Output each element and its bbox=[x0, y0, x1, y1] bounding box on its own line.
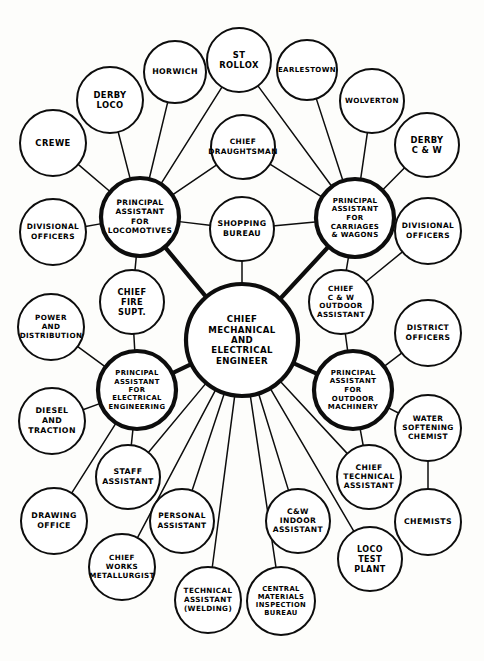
node-personal_asst[interactable]: PERSONALASSISTANT bbox=[150, 489, 214, 553]
node-power_dist[interactable]: POWERANDDISTRIBUTION bbox=[18, 294, 84, 360]
node-circle-loco_test[interactable] bbox=[338, 527, 402, 591]
node-pa_outdoor[interactable]: PRINCIPALASSISTANTFOROUTDOORMACHINERY bbox=[314, 351, 392, 429]
node-st_rollox[interactable]: STROLLOX bbox=[207, 28, 271, 92]
node-circle-chemists[interactable] bbox=[395, 489, 461, 555]
node-circle-derby_loco[interactable] bbox=[77, 67, 143, 133]
node-tech_weld[interactable]: TECHNICALASSISTANT(WELDING) bbox=[175, 567, 241, 633]
node-earlestown[interactable]: EARLESTOWN bbox=[277, 40, 337, 100]
node-cw_indoor[interactable]: C&WINDOORASSISTANT bbox=[266, 489, 330, 553]
node-chemists[interactable]: CHEMISTS bbox=[395, 489, 461, 555]
node-circle-chief_cw_out[interactable] bbox=[309, 270, 373, 334]
node-chief_draught[interactable]: CHIEFDRAUGHTSMAN bbox=[208, 115, 278, 179]
node-circle-pa_loco[interactable] bbox=[101, 178, 179, 256]
node-circle-tech_weld[interactable] bbox=[175, 567, 241, 633]
edge-cme-to-pa_loco bbox=[164, 246, 207, 298]
node-derby_cw[interactable]: DERBYC & W bbox=[395, 113, 459, 177]
edge-pa_loco-to-derby_loco bbox=[118, 131, 131, 181]
node-chief_tech[interactable]: CHIEFTECHNICALASSISTANT bbox=[337, 445, 401, 509]
org-chart-canvas: CHIEFMECHANICALANDELECTRICALENGINEERPRIN… bbox=[0, 0, 484, 661]
edge-pa_loco-to-shopping bbox=[177, 221, 211, 225]
node-pa_cw[interactable]: PRINCIPALASSISTANTFORCARRIAGES& WAGONS bbox=[316, 179, 394, 257]
node-pa_loco[interactable]: PRINCIPALASSISTANTFORLOCOMOTIVES bbox=[101, 178, 179, 256]
edge-pa_elec-to-power_dist bbox=[76, 346, 106, 368]
node-circle-cme[interactable] bbox=[186, 284, 298, 396]
edge-cme-to-personal_asst bbox=[192, 392, 225, 492]
node-district_off[interactable]: DISTRICTOFFICERS bbox=[395, 300, 461, 366]
node-drawing[interactable]: DRAWINGOFFICE bbox=[21, 488, 87, 554]
node-circle-cw_indoor[interactable] bbox=[266, 489, 330, 553]
node-circle-chief_draught[interactable] bbox=[211, 115, 275, 179]
org-chart-diagram: CHIEFMECHANICALANDELECTRICALENGINEERPRIN… bbox=[0, 0, 484, 661]
node-chief_works[interactable]: CHIEFWORKSMETALLURGIST bbox=[89, 534, 155, 600]
node-water_chem[interactable]: WATERSOFTENINGCHEMIST bbox=[395, 395, 461, 461]
edge-pa_cw-to-wolverton bbox=[360, 131, 367, 181]
node-circle-district_off[interactable] bbox=[395, 300, 461, 366]
node-circle-wolverton[interactable] bbox=[340, 69, 404, 133]
node-circle-crewe[interactable] bbox=[20, 110, 86, 176]
node-cme[interactable]: CHIEFMECHANICALANDELECTRICALENGINEER bbox=[186, 284, 298, 396]
node-circle-st_rollox[interactable] bbox=[207, 28, 271, 92]
edge-pa_outdoor-to-district_off bbox=[383, 352, 403, 367]
node-horwich[interactable]: HORWICH bbox=[144, 41, 206, 103]
node-wolverton[interactable]: WOLVERTON bbox=[340, 69, 404, 133]
nodes-layer: CHIEFMECHANICALANDELECTRICALENGINEERPRIN… bbox=[18, 28, 461, 635]
edge-cme-to-pa_outdoor bbox=[292, 362, 319, 374]
node-circle-shopping[interactable] bbox=[210, 197, 274, 261]
node-div_off_right[interactable]: DIVISIONALOFFICERS bbox=[395, 198, 461, 264]
node-loco_test[interactable]: LOCOTESTPLANT bbox=[338, 527, 402, 591]
edge-pa_loco-to-horwich bbox=[149, 101, 168, 181]
node-circle-chief_fire[interactable] bbox=[100, 270, 164, 334]
node-circle-power_dist[interactable] bbox=[18, 294, 84, 360]
node-crewe[interactable]: CREWE bbox=[20, 110, 86, 176]
node-circle-pa_elec[interactable] bbox=[98, 351, 176, 429]
node-circle-derby_cw[interactable] bbox=[395, 113, 459, 177]
node-circle-staff_asst[interactable] bbox=[96, 445, 160, 509]
edge-pa_cw-to-shopping bbox=[272, 222, 317, 226]
edge-cme-to-central_mat bbox=[250, 394, 276, 569]
node-chief_fire[interactable]: CHIEFFIRESUPT. bbox=[100, 270, 164, 334]
node-derby_loco[interactable]: DERBYLOCO bbox=[77, 67, 143, 133]
node-shopping[interactable]: SHOPPINGBUREAU bbox=[210, 197, 274, 261]
node-circle-personal_asst[interactable] bbox=[150, 489, 214, 553]
node-chief_cw_out[interactable]: CHIEFC & WOUTDOORASSISTANT bbox=[309, 270, 373, 334]
node-circle-div_off_right[interactable] bbox=[395, 198, 461, 264]
edge-pa_cw-to-chief_draught bbox=[269, 163, 324, 198]
node-circle-central_mat[interactable] bbox=[247, 567, 315, 635]
node-circle-chief_works[interactable] bbox=[89, 534, 155, 600]
node-pa_elec[interactable]: PRINCIPALASSISTANTFORELECTRICALENGINEERI… bbox=[98, 351, 176, 429]
node-circle-drawing[interactable] bbox=[21, 488, 87, 554]
edge-pa_cw-to-derby_cw bbox=[381, 167, 405, 192]
node-circle-pa_cw[interactable] bbox=[316, 179, 394, 257]
node-circle-water_chem[interactable] bbox=[395, 395, 461, 461]
node-circle-horwich[interactable] bbox=[144, 41, 206, 103]
node-circle-div_off_left[interactable] bbox=[20, 199, 86, 265]
node-diesel[interactable]: DIESELANDTRACTION bbox=[19, 388, 85, 454]
node-central_mat[interactable]: CENTRALMATERIALSINSPECTIONBUREAU bbox=[247, 567, 315, 635]
node-staff_asst[interactable]: STAFFASSISTANT bbox=[96, 445, 160, 509]
node-circle-diesel[interactable] bbox=[19, 388, 85, 454]
edge-cme-to-pa_elec bbox=[171, 363, 193, 373]
edge-pa_loco-to-chief_draught bbox=[171, 164, 218, 196]
node-circle-chief_tech[interactable] bbox=[337, 445, 401, 509]
edge-pa_loco-to-crewe bbox=[77, 163, 111, 192]
node-circle-earlestown[interactable] bbox=[277, 40, 337, 100]
node-div_off_left[interactable]: DIVISIONALOFFICERS bbox=[20, 199, 86, 265]
node-circle-pa_outdoor[interactable] bbox=[314, 351, 392, 429]
